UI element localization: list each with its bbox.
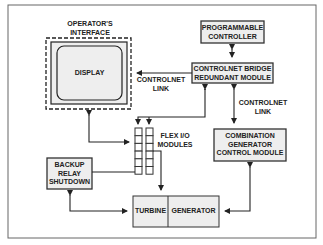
plc-line1: PROGRAMMABLE — [202, 24, 263, 31]
plc-line2: CONTROLLER — [208, 33, 257, 40]
backup-line1: BACKUP — [55, 161, 85, 168]
controlnet-link-left-label: CONTROLNETLINK — [136, 76, 186, 93]
combination-generator-connector — [225, 167, 250, 211]
display-label: DISPLAY — [57, 69, 122, 78]
turbine-label: TURBINE — [133, 207, 168, 216]
link-right-line2: LINK — [255, 108, 271, 115]
controlnet-link-right-label: CONTROLNETLINK — [236, 99, 290, 116]
flex-io-line2: MODULES — [158, 141, 193, 148]
flex-io-turbine-connector — [153, 151, 161, 190]
link-left-line1: CONTROLNET — [137, 76, 186, 83]
backup-line3: SHUTDOWN — [49, 178, 90, 185]
generator-label: GENERATOR — [168, 207, 219, 216]
flex-io-column-1 — [135, 128, 142, 174]
bridge-line1: CONTROLNET BRIDGE — [194, 65, 272, 72]
link-right-line1: CONTROLNET — [239, 99, 288, 106]
controlnet-bridge-label: CONTROLNET BRIDGEREDUNDANT MODULE — [192, 65, 273, 82]
combination-module-label: COMBINATIONGENERATORCONTROL MODULE — [214, 132, 286, 158]
bridge-line2: REDUNDANT MODULE — [194, 74, 271, 81]
flex-io-label: FLEX I/OMODULES — [154, 132, 196, 149]
operator-label-line1: OPERATOR'S — [67, 20, 112, 27]
control-system-diagram: OPERATOR'SINTERFACE DISPLAY PROGRAMMABLE… — [0, 0, 323, 245]
display-flex-io-connector — [89, 115, 129, 142]
combo-line1: COMBINATION — [225, 132, 275, 139]
programmable-controller-label: PROGRAMMABLECONTROLLER — [201, 24, 264, 41]
operator-interface-label: OPERATOR'SINTERFACE — [58, 20, 122, 37]
bridge-to-flex-io-connector — [138, 89, 205, 124]
flex-io-line1: FLEX I/O — [160, 132, 189, 139]
link-left-line2: LINK — [153, 85, 169, 92]
backup-line2: RELAY — [58, 170, 81, 177]
combo-line2: GENERATOR — [228, 141, 272, 148]
backup-relay-turbine-connector — [70, 195, 127, 211]
backup-relay-label: BACKUPRELAYSHUTDOWN — [47, 161, 92, 187]
combo-line3: CONTROL MODULE — [217, 149, 284, 156]
operator-label-line2: INTERFACE — [70, 29, 110, 36]
flex-io-column-2 — [146, 128, 153, 174]
